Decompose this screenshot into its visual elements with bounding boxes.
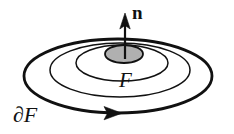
boundary-label: ∂F xyxy=(13,104,37,126)
surface-label: F xyxy=(119,70,132,91)
normal-vector-label: n xyxy=(132,3,143,22)
surface-boundary-diagram: n F ∂F xyxy=(0,0,234,134)
